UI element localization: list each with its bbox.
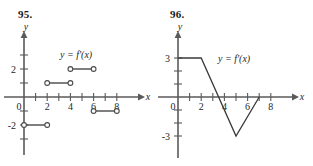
y-tick-label-neg2-95: -2 <box>8 120 16 131</box>
x-axis-arrowhead-95 <box>138 94 145 101</box>
y-axis-name-95: y <box>23 21 29 32</box>
curve-label-95: y = f'(x) <box>59 49 93 61</box>
y-axis-name-96: y <box>177 21 183 32</box>
page-root: 95. 0 2 4 <box>0 0 313 166</box>
y-axis-arrowhead-95 <box>21 31 28 38</box>
open-endpoint-4-right <box>114 109 119 114</box>
x-axis-arrowhead-96 <box>292 94 299 101</box>
open-endpoint-3-left <box>68 67 73 72</box>
figure-95: 95. 0 2 4 <box>0 0 157 166</box>
open-endpoint-4-left <box>91 109 96 114</box>
y-axis-arrowhead-96 <box>175 31 182 38</box>
open-endpoint-2-left <box>45 81 50 86</box>
curve-label-96: y = f'(x) <box>217 53 251 65</box>
plot-96: 0 2 4 6 8 3 -3 x y y = f'(x) <box>156 0 313 166</box>
plot-95: 0 2 4 6 8 2 -2 x y y = f'(x) <box>0 0 157 166</box>
x-tick-label-6-96: 6 <box>245 101 250 112</box>
x-tick-label-2-96: 2 <box>199 101 204 112</box>
x-tick-label-8-96: 8 <box>268 101 273 112</box>
y-tick-label-neg3-96: -3 <box>162 131 170 142</box>
y-tick-label-3-96: 3 <box>165 53 170 64</box>
figure-96: 96. 0 2 4 <box>156 0 313 166</box>
y-tick-label-2-95: 2 <box>11 64 16 75</box>
open-endpoint-2-right <box>68 81 73 86</box>
x-tick-label-0-95: 0 <box>17 101 22 112</box>
x-tick-label-2-95: 2 <box>45 101 50 112</box>
x-tick-label-0-96: 0 <box>171 101 176 112</box>
open-endpoint-1-left <box>22 123 27 128</box>
open-endpoint-3-right <box>91 67 96 72</box>
open-endpoint-1-right <box>45 123 50 128</box>
x-axis-name-95: x <box>145 91 151 102</box>
x-tick-label-4-95: 4 <box>68 101 73 112</box>
x-axis-name-96: x <box>299 91 305 102</box>
